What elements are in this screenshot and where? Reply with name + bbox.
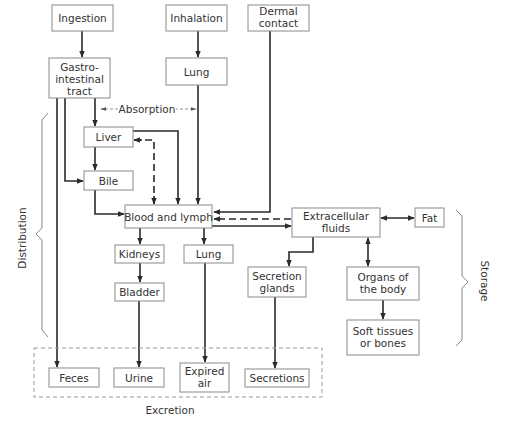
svg-text:Lung: Lung — [184, 66, 210, 78]
svg-text:glands: glands — [260, 282, 295, 294]
node-gastrointestinal-tract: Gastro- intestinal tract — [49, 58, 110, 98]
svg-text:Organs of: Organs of — [357, 271, 408, 283]
svg-text:Kidneys: Kidneys — [119, 248, 160, 260]
svg-text:the body: the body — [360, 283, 407, 295]
edge-liver-blood — [133, 131, 178, 204]
distribution-label: Distribution — [16, 207, 28, 268]
node-bile: Bile — [84, 171, 133, 190]
svg-text:Inhalation: Inhalation — [170, 12, 222, 24]
svg-text:Dermal: Dermal — [259, 5, 297, 17]
node-lung-entry: Lung — [166, 58, 227, 85]
svg-text:Blood and lymph: Blood and lymph — [124, 211, 213, 223]
node-extracellular-fluids: Extracellular fluids — [292, 208, 380, 237]
node-kidneys: Kidneys — [115, 245, 164, 263]
node-lung-exit: Lung — [184, 245, 233, 263]
node-liver: Liver — [84, 127, 133, 147]
edges — [57, 31, 414, 368]
node-urine: Urine — [114, 368, 164, 387]
node-expired-air: Expired air — [180, 363, 229, 392]
svg-text:Liver: Liver — [96, 131, 122, 143]
node-bladder: Bladder — [115, 283, 164, 301]
node-soft-tissues-or-bones: Soft tissues or bones — [347, 320, 419, 355]
svg-text:Expired: Expired — [185, 365, 225, 377]
svg-text:Gastro-: Gastro- — [60, 61, 99, 73]
absorption-label: Absorption — [119, 103, 176, 115]
node-blood-and-lymph: Blood and lymph — [124, 205, 213, 228]
edge-extracellular-glands — [289, 237, 313, 266]
node-ingestion: Ingestion — [52, 5, 113, 31]
node-secretion-glands: Secretion glands — [248, 267, 306, 297]
storage-label: Storage — [479, 260, 491, 301]
node-fat: Fat — [415, 208, 444, 227]
svg-text:Soft tissues: Soft tissues — [353, 325, 414, 337]
toxicokinetics-flow-diagram: Ingestion Inhalation Dermal contact Gast… — [0, 0, 505, 425]
node-dermal-contact: Dermal contact — [248, 5, 309, 31]
svg-text:fluids: fluids — [322, 222, 350, 234]
svg-text:Secretion: Secretion — [252, 270, 302, 282]
svg-text:Urine: Urine — [125, 372, 153, 384]
svg-text:air: air — [198, 377, 212, 389]
svg-text:Feces: Feces — [59, 372, 89, 384]
svg-text:Lung: Lung — [196, 248, 222, 260]
excretion-label: Excretion — [145, 404, 194, 416]
svg-text:Secretions: Secretions — [249, 372, 304, 384]
distribution-brace — [36, 113, 48, 337]
storage-brace — [456, 210, 468, 346]
svg-text:Bladder: Bladder — [119, 286, 160, 298]
edge-gi-bile — [65, 98, 83, 181]
svg-text:or bones: or bones — [360, 337, 406, 349]
node-organs-of-the-body: Organs of the body — [347, 267, 419, 300]
node-inhalation: Inhalation — [166, 5, 227, 31]
node-secretions: Secretions — [245, 369, 309, 387]
svg-text:Bile: Bile — [99, 175, 119, 187]
svg-text:Extracellular: Extracellular — [303, 210, 370, 222]
svg-text:intestinal: intestinal — [55, 73, 104, 85]
svg-text:Ingestion: Ingestion — [58, 12, 106, 24]
node-feces: Feces — [49, 368, 99, 387]
svg-text:tract: tract — [67, 85, 92, 97]
svg-text:contact: contact — [259, 17, 298, 29]
edge-blood-liver-dashed — [135, 140, 154, 204]
svg-text:Fat: Fat — [422, 212, 438, 224]
edge-bile-blood — [95, 190, 124, 214]
